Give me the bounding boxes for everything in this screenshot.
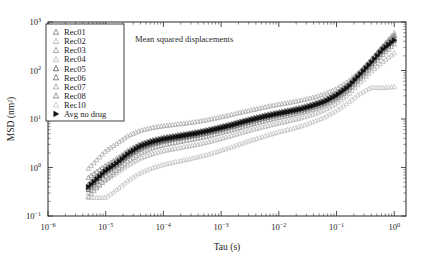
x-axis-title: Tau (s) (214, 242, 241, 253)
svg-text:10−2: 10−2 (271, 221, 286, 232)
svg-text:101: 101 (29, 113, 41, 124)
series-rec08 (86, 35, 396, 186)
svg-text:100: 100 (388, 221, 400, 232)
series-rec03 (86, 33, 396, 180)
svg-text:10−1: 10−1 (329, 221, 344, 232)
msd-figure: 10−610−510−410−310−210−110010−1100101102… (0, 0, 430, 256)
svg-text:103: 103 (29, 16, 41, 27)
plot-annotation-layer: Mean squared displacements (135, 34, 233, 44)
svg-text:10−4: 10−4 (156, 221, 171, 232)
svg-text:10−1: 10−1 (26, 210, 41, 221)
plot-title-annotation: Mean squared displacements (135, 34, 233, 44)
series-rec10 (86, 84, 396, 199)
svg-text:10−3: 10−3 (214, 221, 229, 232)
data-markers-layer (86, 30, 397, 199)
svg-text:102: 102 (29, 64, 41, 75)
series-rec06 (86, 38, 396, 191)
msd-scatter-plot: 10−610−510−410−310−210−110010−1100101102… (0, 0, 430, 256)
legend-item-label: Avg no drug (64, 109, 107, 119)
legend[interactable]: Rec01Rec02Rec03Rec04Rec05Rec06Rec07Rec08… (46, 24, 124, 121)
svg-text:10−5: 10−5 (98, 221, 113, 232)
y-axis-title: MSD (nm²) (6, 97, 17, 141)
svg-text:10−6: 10−6 (40, 221, 55, 232)
svg-text:100: 100 (29, 161, 41, 172)
